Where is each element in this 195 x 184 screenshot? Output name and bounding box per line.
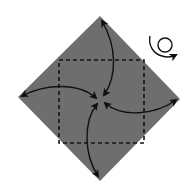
turn-over-icon [150,36,176,57]
paper-diamond [18,16,180,181]
diagram-canvas [0,0,195,184]
origami-diagram: origami-fold-step [0,0,195,184]
